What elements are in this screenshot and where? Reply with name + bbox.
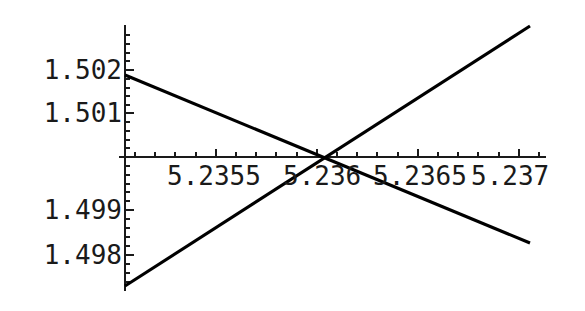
axes-group <box>119 25 546 291</box>
x-tick-label: 5.236 <box>283 163 361 189</box>
x-tick-label: 5.2355 <box>167 163 261 189</box>
x-tick-label: 5.237 <box>471 163 549 189</box>
y-tick-label: 1.499 <box>0 197 122 223</box>
y-axis-ticks <box>125 35 134 282</box>
y-tick-label: 1.502 <box>0 57 122 83</box>
plot-figure: 1.502 1.501 1.499 1.498 5.2355 5.236 5.2… <box>0 0 585 311</box>
y-tick-label: 1.501 <box>0 100 122 126</box>
y-tick-label: 1.498 <box>0 242 122 268</box>
series-descending-line <box>125 75 530 243</box>
x-tick-label: 5.2365 <box>373 163 467 189</box>
